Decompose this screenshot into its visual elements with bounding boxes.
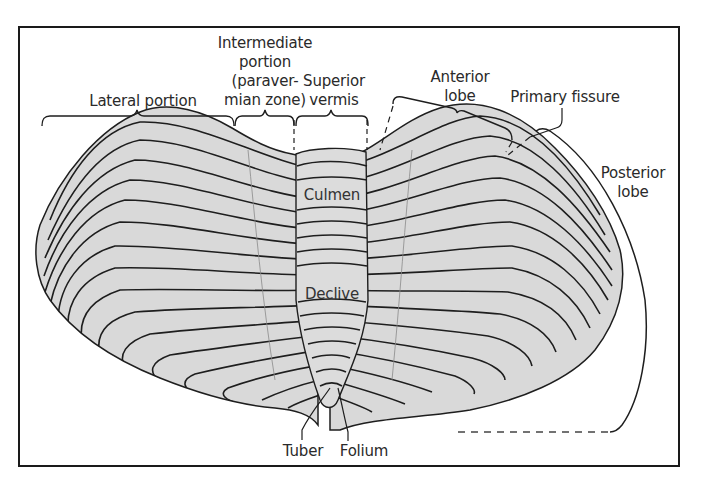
label-posterior-lobe-line-1: Posterior (598, 164, 668, 183)
label-posterior-lobe: Posterior lobe (598, 164, 668, 202)
label-primary-fissure: Primary fissure (510, 88, 620, 107)
right-hemisphere (330, 104, 623, 430)
vermis-dashed-lines (294, 120, 367, 150)
label-intermediate-line-1: Intermediate (210, 34, 320, 53)
label-posterior-lobe-line-2: lobe (598, 183, 668, 202)
label-tuber: Tuber (278, 442, 328, 461)
label-superior-vermis-line-2: vermis (298, 91, 370, 110)
label-superior-vermis: Superior vermis (298, 72, 370, 110)
label-folium: Folium (336, 442, 392, 461)
label-anterior-lobe-line-1: Anterior (422, 68, 498, 87)
label-superior-vermis-line-1: Superior (298, 72, 370, 91)
left-hemisphere (36, 107, 320, 425)
label-declive: Declive (300, 285, 364, 304)
label-anterior-lobe-line-2: lobe (422, 87, 498, 106)
label-lateral-portion: Lateral portion (58, 92, 228, 111)
label-intermediate-line-2: portion (210, 53, 320, 72)
label-anterior-lobe: Anterior lobe (422, 68, 498, 106)
label-culmen: Culmen (300, 186, 364, 205)
